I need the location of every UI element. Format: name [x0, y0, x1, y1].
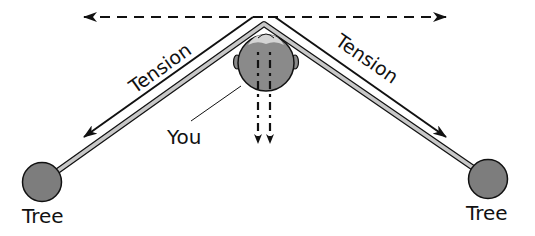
tension-diagram: Tension Tension You Tree Tree [0, 0, 535, 236]
tension-arrow-left [84, 17, 253, 137]
you-leader-line [191, 86, 241, 121]
tension-label-left: Tension [124, 38, 195, 98]
tree-left-icon [23, 163, 62, 202]
tension-arrow-right [275, 17, 446, 137]
you-label: You [166, 125, 201, 149]
tree-right-icon [469, 160, 508, 199]
tree-label-right: Tree [465, 201, 508, 225]
tree-label-left: Tree [21, 204, 64, 228]
